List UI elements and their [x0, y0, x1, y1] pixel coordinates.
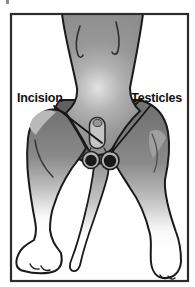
incision-label: Incision [17, 91, 63, 105]
testicle-right [104, 155, 116, 167]
testicles-label: Testicles [131, 91, 182, 105]
corner-artifact-mark [6, 0, 9, 4]
testicle-left [85, 155, 97, 167]
prepuce-tip [93, 120, 102, 127]
neuter-diagram-figure: Incision Testicles [0, 0, 195, 287]
